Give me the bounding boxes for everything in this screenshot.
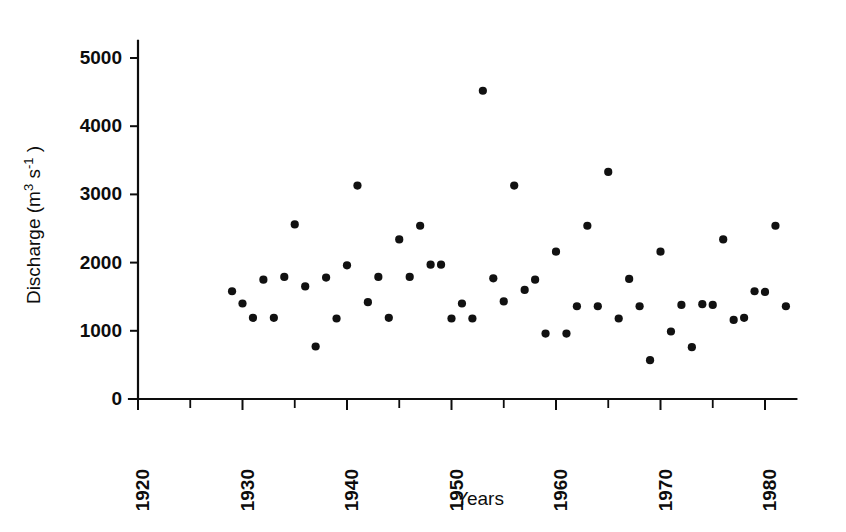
data-point: [437, 261, 445, 269]
data-point: [771, 222, 779, 230]
y-axis-title-main: Discharge (m: [23, 191, 44, 304]
svg-text:Discharge (m3 s-1 ): Discharge (m3 s-1 ): [21, 146, 44, 304]
x-tick-label: 1930: [237, 469, 258, 511]
data-point: [709, 301, 717, 309]
data-point: [228, 287, 236, 295]
data-point: [510, 181, 518, 189]
y-tick-label: 4000: [80, 115, 122, 136]
data-point: [353, 181, 361, 189]
data-point: [656, 248, 664, 256]
data-point: [761, 288, 769, 296]
data-point: [238, 299, 246, 307]
data-point: [667, 327, 675, 335]
x-tick-label: 1980: [759, 469, 780, 511]
data-point: [625, 275, 633, 283]
y-tick-label: 1000: [80, 320, 122, 341]
y-tick-labels: 010002000300040005000: [80, 47, 122, 409]
x-tick-label: 1920: [132, 469, 153, 511]
y-axis: [129, 41, 138, 399]
scatter-plot-figure: 010002000300040005000 192019301940195019…: [0, 0, 846, 532]
data-point: [646, 356, 654, 364]
data-point: [458, 299, 466, 307]
data-point: [270, 314, 278, 322]
x-tick-label: 1940: [341, 469, 362, 511]
data-point: [447, 314, 455, 322]
plot-canvas: 010002000300040005000 192019301940195019…: [0, 0, 846, 532]
y-tick-label: 3000: [80, 183, 122, 204]
y-tick-label: 0: [111, 388, 122, 409]
x-axis-title: Years: [456, 488, 504, 509]
y-axis-title-exponent-minus1: -1: [21, 158, 36, 170]
data-point: [573, 302, 581, 310]
data-points: [228, 87, 790, 365]
data-point: [583, 222, 591, 230]
data-point: [636, 302, 644, 310]
data-point: [259, 276, 267, 284]
y-axis-title-close: ): [23, 146, 44, 158]
y-tick-label: 5000: [80, 47, 122, 68]
data-point: [301, 282, 309, 290]
data-point: [719, 235, 727, 243]
data-point: [782, 302, 790, 310]
y-axis-title-mid: s: [23, 169, 44, 184]
data-point: [343, 261, 351, 269]
data-point: [688, 343, 696, 351]
data-point: [416, 222, 424, 230]
y-axis-title-exponent-3: 3: [21, 184, 36, 191]
data-point: [479, 87, 487, 95]
data-point: [562, 329, 570, 337]
x-tick-label: 1960: [550, 469, 571, 511]
data-point: [677, 301, 685, 309]
y-tick-label: 2000: [80, 252, 122, 273]
data-point: [552, 248, 560, 256]
data-point: [521, 286, 529, 294]
data-point: [322, 274, 330, 282]
data-point: [489, 274, 497, 282]
data-point: [406, 273, 414, 281]
data-point: [312, 342, 320, 350]
y-axis-title: Discharge (m3 s-1 ): [21, 146, 44, 304]
data-point: [280, 273, 288, 281]
x-tick-label: 1970: [655, 469, 676, 511]
data-point: [374, 273, 382, 281]
data-point: [604, 168, 612, 176]
data-point: [730, 316, 738, 324]
data-point: [541, 329, 549, 337]
data-point: [750, 287, 758, 295]
data-point: [364, 298, 372, 306]
data-point: [249, 314, 257, 322]
data-point: [594, 302, 602, 310]
data-point: [427, 261, 435, 269]
data-point: [500, 297, 508, 305]
data-point: [740, 314, 748, 322]
data-point: [531, 276, 539, 284]
x-axis: [129, 391, 796, 410]
data-point: [468, 314, 476, 322]
data-point: [332, 314, 340, 322]
data-point: [615, 314, 623, 322]
data-point: [395, 235, 403, 243]
data-point: [291, 220, 299, 228]
data-point: [698, 300, 706, 308]
data-point: [385, 314, 393, 322]
